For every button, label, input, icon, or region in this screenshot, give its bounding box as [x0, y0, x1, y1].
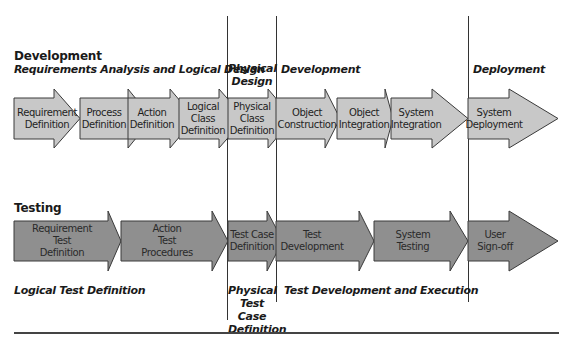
bottom-rule [14, 332, 559, 334]
dev-step-system-deployment: System Deployment [468, 100, 520, 138]
test-step-user-sign-off: User Sign-off [468, 222, 522, 260]
dev-step-process-definition: Process Definition [80, 100, 128, 138]
test-step-action-test-procedures: Action Test Procedures [121, 222, 213, 260]
test-step-test-case-definition: Test Case Definition [228, 222, 276, 260]
dev-step-logical-class-definition: Logical Class Definition [179, 98, 227, 140]
dev-step-physical-class-definition: Physical Class Definition [228, 98, 276, 140]
phase-physical-test-line2: Test Case [228, 297, 276, 323]
phase-test-development-execution: Test Development and Execution [284, 284, 478, 297]
phase-physical-test-line1: Physical [228, 284, 276, 297]
testing-title: Testing [14, 201, 61, 215]
dev-step-object-integration: Object Integration [337, 100, 391, 138]
test-step-requirement-test-definition: Requirement Test Definition [14, 222, 110, 260]
dev-step-action-definition: Action Definition [128, 100, 176, 138]
dev-step-requirement-definition: Requirement Definition [14, 100, 80, 138]
phase-logical-test-definition: Logical Test Definition [14, 284, 145, 297]
dev-step-system-integration: System Integration [391, 100, 441, 138]
phase-physical-test-line3: Definition [228, 323, 276, 336]
phase-physical-test-case-definition: Physical Test Case Definition [228, 284, 276, 336]
test-step-test-development: Test Development [276, 222, 348, 260]
test-step-system-testing: System Testing [374, 222, 452, 260]
dev-step-object-construction: Object Construction [276, 100, 338, 138]
